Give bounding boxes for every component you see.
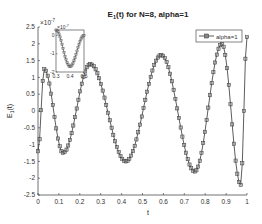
y-tick-label: 2 [31,40,35,47]
data-point-marker [151,69,154,72]
inset-data-point-marker [66,61,68,63]
data-point-marker [188,163,191,166]
data-point-marker [179,126,182,129]
inset-x-tick-label: 0.5 [81,73,88,79]
data-point-marker [217,47,220,50]
inset-data-point-marker [75,53,77,55]
legend-marker-square-icon [205,34,209,38]
data-point-marker [68,138,71,141]
y-tick-label: -2 [29,174,35,181]
x-tick-label: 0.5 [138,198,147,205]
inset-data-point-marker [74,57,76,59]
data-point-marker [133,144,136,147]
x-tick-label: 0.7 [180,198,189,205]
inset-data-point-marker [76,50,78,52]
data-point-marker [36,150,39,153]
data-point-marker [181,135,184,138]
x-tick-label: 1 [245,198,249,205]
inset-data-point-marker [62,47,64,49]
data-point-marker [128,157,131,160]
y-axis-label: E1(t) [6,104,15,118]
data-point-marker [108,119,111,122]
data-point-marker [94,68,97,71]
data-point-marker [46,74,49,77]
data-point-marker [53,115,56,118]
data-point-marker [242,109,245,112]
inset-data-point-marker [59,36,61,38]
inset-data-point-marker [61,43,63,45]
legend-label: alpha=1 [216,34,238,40]
y-tick-label: -2.5 [24,191,36,198]
data-point-marker [231,123,234,126]
data-point-marker [44,69,47,72]
inset-data-point-marker [64,55,66,57]
x-axis-label: t [147,209,149,216]
data-point-marker [212,71,215,74]
data-point-marker [153,64,156,67]
data-point-marker [105,104,108,107]
inset-plot: ×10-7 0-1-20.30.40.5 [50,24,88,79]
x-tick-label: 0.1 [54,198,63,205]
legend: alpha=1 [196,30,242,42]
data-point-marker [75,107,78,110]
data-point-marker [198,159,201,162]
data-point-marker [184,151,187,154]
data-point-marker [234,159,237,162]
data-point-marker [195,169,198,172]
data-point-marker [222,45,225,48]
data-point-marker [58,145,61,148]
data-point-marker [55,127,58,130]
data-point-marker [98,77,101,80]
data-point-marker [140,115,143,118]
data-point-marker [135,138,138,141]
data-point-marker [65,148,68,151]
data-point-marker [227,83,230,86]
inset-data-point-marker [83,34,85,36]
data-point-marker [165,60,168,63]
inset-data-point-marker [78,43,80,45]
x-tick-label: 0.3 [96,198,105,205]
figure: E1(t) for N=8, alpha=1 ×10-7 2.521.510.5… [0,0,262,224]
data-point-marker [176,107,179,110]
data-point-marker [207,106,210,109]
data-point-marker [208,94,211,97]
x-tick-label: 0.9 [222,198,231,205]
data-point-marker [167,66,170,69]
inset-data-point-marker [77,46,79,48]
data-point-marker [48,82,51,85]
inset-data-point-marker [72,62,74,64]
data-point-marker [51,103,54,106]
data-point-marker [138,123,141,126]
data-point-marker [114,140,117,143]
data-point-marker [40,109,43,112]
data-point-marker [203,131,206,134]
inset-x-tick-label: 0.4 [67,73,74,79]
data-point-marker [147,82,150,85]
data-point-marker [110,126,113,129]
data-point-marker [163,56,166,59]
data-point-marker [103,96,106,99]
data-point-marker [115,146,118,149]
y-tick-label: 2.5 [26,23,35,30]
inset-data-point-marker [73,60,75,62]
data-point-marker [226,67,229,70]
inset-data-point-marker [65,59,67,61]
y-tick-label: -1 [29,141,35,148]
data-point-marker [214,61,217,64]
y-tick-label: 0 [31,107,35,114]
data-point-marker [215,53,218,56]
data-point-marker [38,138,41,141]
data-point-marker [56,137,59,140]
data-point-marker [70,132,73,135]
data-point-marker [77,98,80,101]
data-point-marker [154,59,157,62]
data-point-marker [67,144,70,147]
y-exponent-label: ×10-7 [40,18,56,26]
data-point-marker [144,98,147,101]
data-point-marker [200,151,203,154]
x-tick-label: 0.6 [159,198,168,205]
y-tick-label: 0.5 [26,90,35,97]
data-point-marker [130,154,133,157]
inset-data-point-marker [63,51,65,53]
y-tick-label: 1 [31,74,35,81]
